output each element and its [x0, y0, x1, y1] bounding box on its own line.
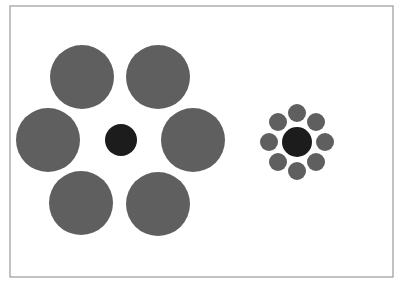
right-surround-circle — [307, 153, 325, 171]
left-surround-circle — [50, 45, 114, 109]
left-surround-circle — [161, 108, 225, 172]
right-group-small-surround — [260, 104, 334, 180]
right-surround-circle — [269, 113, 287, 131]
right-surround-circle — [288, 162, 306, 180]
right-surround-circle — [316, 133, 334, 151]
left-surround-circle — [126, 172, 190, 236]
left-center-circle — [105, 124, 137, 156]
ebbinghaus-figure — [0, 0, 403, 290]
left-group-large-surround — [16, 45, 225, 236]
left-surround-circle — [16, 108, 80, 172]
right-center-circle — [282, 127, 312, 157]
left-surround-circle — [49, 171, 113, 235]
left-surround-circle — [126, 45, 190, 109]
right-surround-circle — [260, 133, 278, 151]
right-surround-circle — [288, 104, 306, 122]
right-surround-circle — [307, 113, 325, 131]
right-surround-circle — [269, 153, 287, 171]
